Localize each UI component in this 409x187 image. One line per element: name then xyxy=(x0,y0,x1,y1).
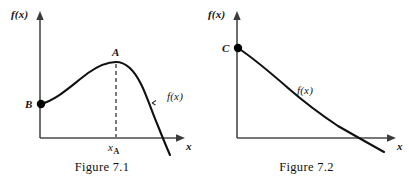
curve-pointer-mark xyxy=(152,101,156,106)
y-axis-arrowhead xyxy=(36,11,43,20)
x-a-tick-label: xA xyxy=(108,142,119,156)
curve-f-of-x xyxy=(41,62,170,155)
x-a-tick-subscript: A xyxy=(113,147,119,156)
point-c-label: C xyxy=(222,43,229,54)
figure-7-2-caption: Figure 7.2 xyxy=(204,160,409,175)
figure-7-1-x-axis-label: x xyxy=(186,141,192,152)
x-axis-arrowhead xyxy=(176,134,185,141)
curve-f-of-x xyxy=(238,48,384,152)
point-a-label: A xyxy=(112,47,119,58)
x-axis-arrowhead xyxy=(387,134,396,141)
figure-7-2-y-axis-label: f(x) xyxy=(208,9,225,20)
figure-7-2-plot xyxy=(204,0,408,160)
point-b-dot xyxy=(37,100,45,108)
figure-7-2-curve-label: f(x) xyxy=(297,85,313,96)
figure-7-1-plot xyxy=(0,0,204,160)
figure-7-1: f(x) x B A f(x) xA Figure 7.1 xyxy=(0,0,204,187)
figure-7-1-y-axis-label: f(x) xyxy=(11,9,28,20)
figure-7-1-curve-label: f(x) xyxy=(167,91,183,102)
point-c-dot xyxy=(234,44,242,52)
figure-7-1-caption: Figure 7.1 xyxy=(0,160,204,175)
point-b-label: B xyxy=(25,99,32,110)
y-axis-arrowhead xyxy=(233,11,240,20)
figures-container: f(x) x B A f(x) xA Figure 7.1 xyxy=(0,0,409,187)
figure-7-2-x-axis-label: x xyxy=(397,141,403,152)
figure-7-2: f(x) x C f(x) Figure 7.2 xyxy=(204,0,409,187)
